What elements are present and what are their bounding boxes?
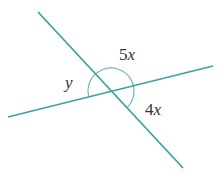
label-5x: 5x [119, 45, 136, 64]
intersecting-lines-diagram: 5x 4x y [0, 0, 219, 176]
label-y: y [63, 73, 73, 92]
line-b [8, 66, 213, 117]
line-a [38, 12, 183, 168]
label-4x: 4x [145, 100, 162, 119]
